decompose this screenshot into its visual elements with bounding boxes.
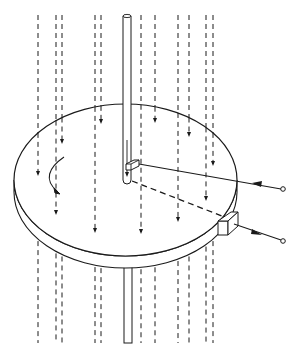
- input-terminal: [281, 187, 286, 192]
- edge-box: [218, 221, 228, 235]
- output-terminal: [281, 239, 286, 244]
- disc-flow-diagram: [0, 0, 295, 356]
- output-lead-arrowhead: [251, 229, 262, 235]
- output-lead-line: [234, 224, 281, 240]
- diagram-canvas: [0, 0, 295, 356]
- rod-lower: [124, 262, 132, 343]
- rod-top-cap: [123, 14, 131, 17]
